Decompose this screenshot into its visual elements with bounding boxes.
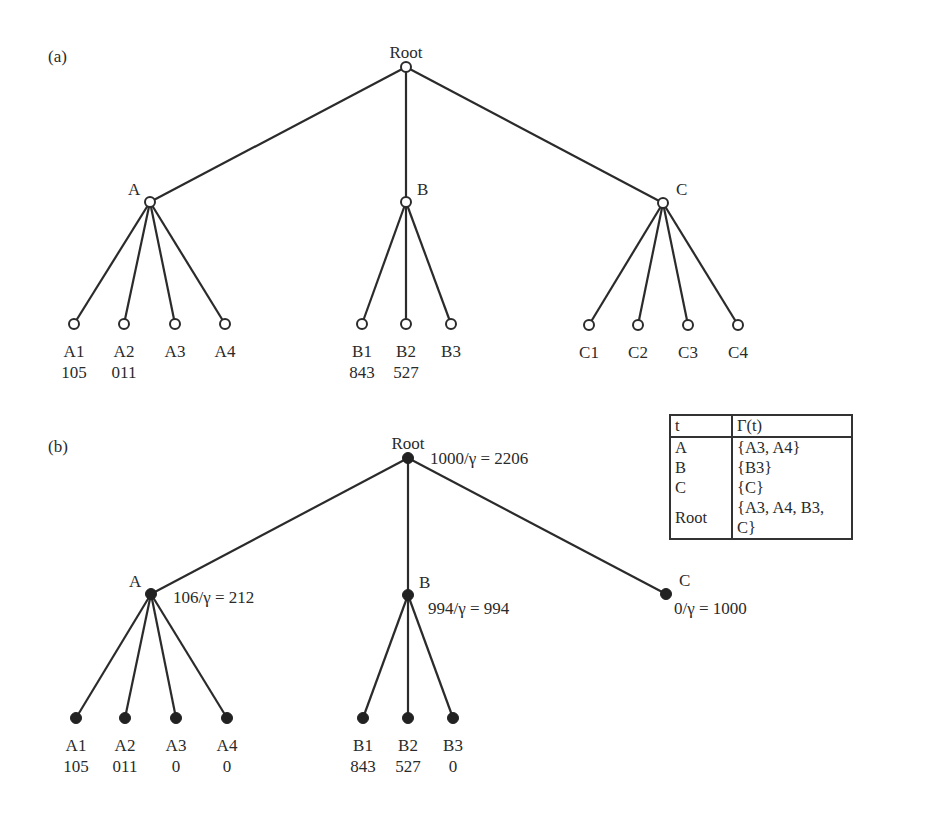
leaf-value-b2: 527 [395,757,421,776]
node-a [145,197,155,207]
leaf-node-a1 [71,713,82,724]
node-root [403,453,414,464]
leaf-value-b1: 843 [349,363,375,382]
cell-gamma: {A3, A4} [732,437,852,458]
edge-root-c [406,67,663,203]
leaf-value-a4: 0 [223,757,232,776]
edge-a-a4 [150,202,225,324]
leaf-value-a1: 105 [63,757,89,776]
edge-b-b1 [363,595,408,718]
cell-t: A [670,437,732,458]
node-root [401,62,411,72]
leaf-label-b1: B1 [353,736,373,755]
node-label-c: C [679,571,690,590]
leaf-label-a3: A3 [165,342,186,361]
leaf-node-b3 [446,319,456,329]
leaf-node-a3 [170,319,180,329]
panel-b: (b)RootABC1000/γ = 2206106/γ = 212994/γ … [48,434,747,776]
leaf-label-b1: B1 [352,342,372,361]
annotation-b: 994/γ = 994 [428,599,510,618]
table-row: B {B3} [670,458,852,478]
leaf-node-c3 [683,320,693,330]
edge-c-c4 [663,203,738,325]
leaf-label-a1: A1 [66,736,87,755]
edge-a-a1 [74,202,150,324]
edge-a-a1 [76,594,151,718]
edge-root-a [151,458,408,594]
leaf-node-b2 [403,713,414,724]
annotation-c: 0/γ = 1000 [674,599,747,618]
node-c [661,589,672,600]
tree-diagram: (a)RootABCA1105A2011A3A4B1843B2527B3C1C2… [0,0,926,817]
edge-b-b1 [362,202,406,324]
leaf-node-c2 [633,320,643,330]
cell-gamma: {B3} [732,458,852,478]
leaf-node-a3 [171,713,182,724]
panel-label: (a) [48,47,67,66]
leaf-label-b2: B2 [396,342,416,361]
leaf-node-c1 [584,320,594,330]
leaf-node-b1 [357,319,367,329]
leaf-value-b3: 0 [449,757,458,776]
table-row: C {C} [670,478,852,498]
table-row: Root {A3, A4, B3, C} [670,498,852,539]
node-label-b: B [419,573,430,592]
leaf-label-c1: C1 [579,343,599,362]
node-c [658,198,668,208]
cell-t: Root [670,498,732,539]
leaf-node-b3 [448,713,459,724]
table-row: A {A3, A4} [670,437,852,458]
node-label-a: A [129,572,142,591]
cell-t: B [670,458,732,478]
leaf-value-a2: 011 [112,363,137,382]
edge-c-c1 [589,203,663,325]
edge-a-a2 [124,202,150,324]
leaf-label-a3: A3 [166,736,187,755]
header-gamma: Γ(t) [732,415,852,437]
node-label-a: A [128,180,141,199]
leaf-node-c4 [733,320,743,330]
node-a [146,589,157,600]
leaf-label-a2: A2 [115,736,136,755]
node-label-c: C [676,180,687,199]
edge-c-c2 [638,203,663,325]
edge-root-c [408,458,666,594]
leaf-label-b2: B2 [398,736,418,755]
header-t: t [670,415,732,437]
gamma-table: t Γ(t) A {A3, A4} B {B3} C {C} Root {A3,… [669,414,853,540]
leaf-label-b3: B3 [441,342,461,361]
panel-label: (b) [48,437,68,456]
node-b [401,197,411,207]
leaf-label-c4: C4 [728,343,748,362]
annotation-a: 106/γ = 212 [173,588,254,607]
leaf-node-a4 [222,713,233,724]
leaf-value-b1: 843 [350,757,376,776]
leaf-label-c3: C3 [678,343,698,362]
leaf-value-a2: 011 [113,757,138,776]
node-label-b: B [417,180,428,199]
node-label-root: Root [389,43,422,62]
leaf-label-a4: A4 [217,736,238,755]
leaf-node-a4 [220,319,230,329]
edge-a-a2 [125,594,151,718]
leaf-label-a4: A4 [215,342,236,361]
leaf-label-c2: C2 [628,343,648,362]
edge-b-b3 [406,202,451,324]
edge-root-a [150,67,406,202]
leaf-node-a2 [119,319,129,329]
leaf-value-b2: 527 [393,363,419,382]
leaf-node-a2 [120,713,131,724]
leaf-value-a3: 0 [172,757,181,776]
table-header-row: t Γ(t) [670,415,852,437]
cell-gamma: {A3, A4, B3, C} [732,498,852,539]
leaf-node-b1 [358,713,369,724]
leaf-node-a1 [69,319,79,329]
leaf-value-a1: 105 [61,363,87,382]
node-b [403,590,414,601]
cell-t: C [670,478,732,498]
leaf-label-b3: B3 [443,736,463,755]
leaf-label-a1: A1 [64,342,85,361]
panel-a: (a)RootABCA1105A2011A3A4B1843B2527B3C1C2… [48,43,748,382]
leaf-node-b2 [401,319,411,329]
annotation-root: 1000/γ = 2206 [430,449,528,468]
